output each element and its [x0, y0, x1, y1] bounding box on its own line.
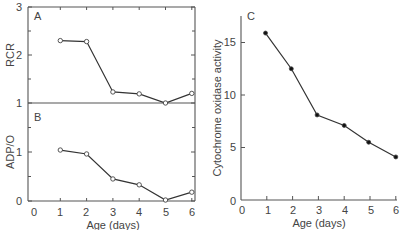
svg-text:0: 0	[31, 206, 37, 218]
ytick-b-0: 0	[16, 195, 22, 207]
svg-text:0: 0	[239, 204, 245, 216]
svg-text:4: 4	[136, 206, 142, 218]
svg-text:1: 1	[265, 204, 271, 216]
svg-text:2: 2	[290, 204, 296, 216]
ylabel-a: RCR	[4, 43, 16, 67]
xticks-ab: 0 1 2 3 4 5 6	[31, 206, 195, 218]
svg-text:4: 4	[342, 204, 348, 216]
ytick-a-2: 2	[16, 49, 22, 61]
svg-text:3: 3	[110, 206, 116, 218]
figure-labels: A B C 1 2 3 0 1 RCR ADP/O 0 1 2 3 4 5 6 …	[0, 0, 401, 230]
svg-text:3: 3	[316, 204, 322, 216]
svg-text:5: 5	[368, 204, 374, 216]
ytick-a-3: 3	[16, 1, 22, 13]
svg-text:1: 1	[57, 206, 63, 218]
xlabel-c: Age (days)	[292, 217, 345, 229]
xlabel-ab: Age (days)	[86, 219, 139, 230]
ytick-c-15: 15	[224, 36, 236, 48]
ytick-c-10: 10	[224, 89, 236, 101]
ytick-c-0: 0	[230, 195, 236, 207]
svg-text:6: 6	[189, 206, 195, 218]
xticks-c: 0 1 2 3 4 5 6	[239, 204, 399, 216]
panel-b-label: B	[34, 111, 41, 123]
svg-text:2: 2	[83, 206, 89, 218]
svg-text:5: 5	[163, 206, 169, 218]
ytick-c-5: 5	[230, 141, 236, 153]
ytick-b-1: 1	[16, 146, 22, 158]
ylabel-c: Cytochrome oxidase activity	[211, 39, 223, 176]
ylabel-b: ADP/O	[4, 134, 16, 169]
panel-c-label: C	[247, 10, 255, 22]
ytick-a-1: 1	[16, 97, 22, 109]
svg-text:6: 6	[393, 204, 399, 216]
panel-a-label: A	[34, 10, 42, 22]
